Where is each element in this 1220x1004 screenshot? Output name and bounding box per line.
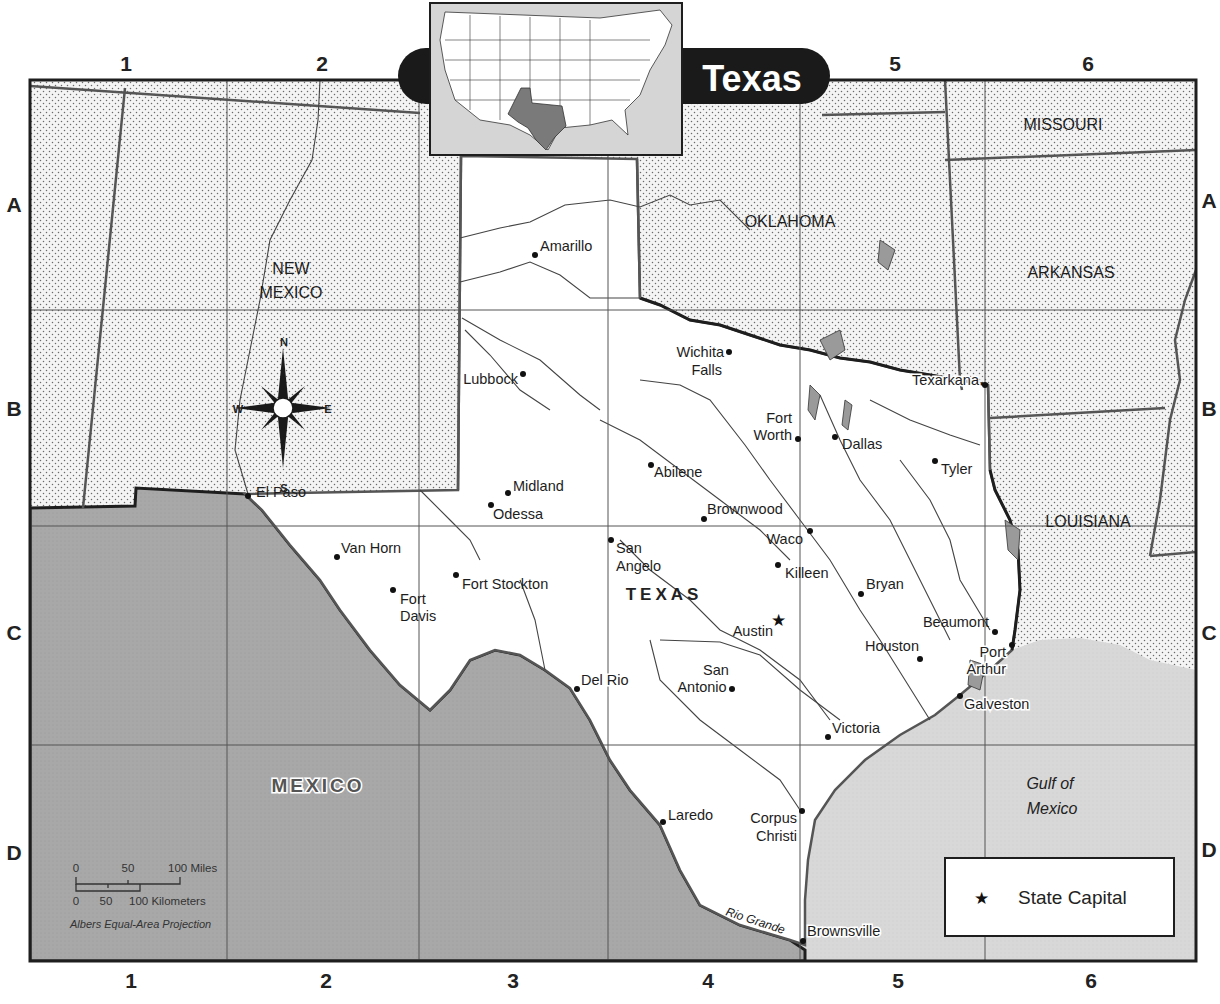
svg-text:Beaumont: Beaumont <box>923 614 989 630</box>
svg-text:C: C <box>6 621 21 644</box>
svg-text:3: 3 <box>507 969 519 992</box>
svg-text:6: 6 <box>1085 969 1097 992</box>
legend-label: State Capital <box>1018 887 1127 908</box>
label-new-mexico-2: MEXICO <box>259 284 322 301</box>
svg-text:N: N <box>280 336 288 348</box>
svg-text:W: W <box>233 403 244 415</box>
svg-text:San: San <box>703 662 729 678</box>
svg-text:Port: Port <box>979 644 1006 660</box>
svg-text:Christi: Christi <box>756 828 797 844</box>
city-abilene: Abilene <box>648 462 702 480</box>
svg-text:0: 0 <box>73 895 79 907</box>
svg-text:Bryan: Bryan <box>866 576 904 592</box>
legend-star-icon: ★ <box>974 889 989 908</box>
svg-text:Abilene: Abilene <box>654 464 702 480</box>
svg-text:Lubbock: Lubbock <box>463 371 519 387</box>
svg-text:Austin: Austin <box>733 623 773 639</box>
svg-text:50: 50 <box>122 862 135 874</box>
svg-text:Texarkana: Texarkana <box>912 372 980 388</box>
svg-text:Houston: Houston <box>865 638 919 654</box>
svg-text:San: San <box>616 540 642 556</box>
svg-text:5: 5 <box>892 969 904 992</box>
svg-text:1: 1 <box>120 52 132 75</box>
svg-text:Fort Stockton: Fort Stockton <box>462 576 548 592</box>
svg-text:5: 5 <box>889 52 901 75</box>
label-gulf-2: Mexico <box>1027 800 1078 817</box>
svg-text:Victoria: Victoria <box>832 720 881 736</box>
label-new-mexico: NEW <box>272 260 310 277</box>
svg-text:Del Rio: Del Rio <box>581 672 629 688</box>
svg-text:6: 6 <box>1082 52 1094 75</box>
svg-text:Odessa: Odessa <box>493 506 544 522</box>
svg-text:100 Kilometers: 100 Kilometers <box>129 895 206 907</box>
svg-text:Laredo: Laredo <box>668 807 713 823</box>
label-gulf-1: Gulf of <box>1026 775 1075 792</box>
svg-text:E: E <box>324 403 331 415</box>
label-arkansas: ARKANSAS <box>1027 264 1114 281</box>
svg-text:Davis: Davis <box>400 608 436 624</box>
svg-text:4: 4 <box>702 969 714 992</box>
svg-text:Albers Equal-Area Projection: Albers Equal-Area Projection <box>69 918 211 930</box>
svg-text:A: A <box>1201 189 1216 212</box>
label-oklahoma: OKLAHOMA <box>745 213 836 230</box>
svg-text:50: 50 <box>100 895 113 907</box>
inset-us-map <box>430 3 682 155</box>
svg-text:Worth: Worth <box>754 427 792 443</box>
label-mexico: MEXICO <box>272 775 365 796</box>
city-galveston: Galveston <box>957 693 1029 712</box>
svg-text:100 Miles: 100 Miles <box>168 862 217 874</box>
svg-text:2: 2 <box>316 52 328 75</box>
city-lubbock: Lubbock <box>463 371 526 387</box>
svg-text:D: D <box>6 841 21 864</box>
svg-text:S: S <box>280 482 287 494</box>
map-body <box>30 80 1196 961</box>
row-labels-right: A B C D <box>1201 189 1216 861</box>
column-labels-bottom: 1 2 3 4 5 6 <box>125 969 1097 992</box>
label-missouri: MISSOURI <box>1023 116 1102 133</box>
svg-text:C: C <box>1201 621 1216 644</box>
svg-text:Arthur: Arthur <box>967 661 1007 677</box>
city-texarkana: Texarkana <box>912 372 988 388</box>
svg-text:D: D <box>1201 838 1216 861</box>
svg-text:Wichita: Wichita <box>676 344 724 360</box>
legend: ★ State Capital <box>945 858 1174 936</box>
svg-text:Dallas: Dallas <box>842 436 882 452</box>
map-title: Texas <box>702 58 801 99</box>
svg-text:A: A <box>6 193 21 216</box>
svg-text:B: B <box>1201 397 1216 420</box>
label-louisiana: LOUISIANA <box>1045 513 1131 530</box>
texas-map: Texas 1 2 5 6 1 2 3 4 5 6 A <box>0 0 1220 1004</box>
row-labels-left: A B C D <box>6 193 21 864</box>
svg-text:Amarillo: Amarillo <box>540 238 592 254</box>
svg-text:Brownsville: Brownsville <box>807 923 880 939</box>
svg-text:Midland: Midland <box>513 478 564 494</box>
svg-text:Falls: Falls <box>691 362 722 378</box>
svg-text:Waco: Waco <box>766 531 803 547</box>
svg-text:Angelo: Angelo <box>616 558 661 574</box>
svg-text:Antonio: Antonio <box>677 679 726 695</box>
city-midland: Midland <box>505 478 564 496</box>
label-texas: TEXAS <box>626 585 703 604</box>
svg-text:Fort: Fort <box>766 410 792 426</box>
svg-text:Galveston: Galveston <box>964 696 1029 712</box>
svg-text:Fort: Fort <box>400 591 426 607</box>
svg-text:2: 2 <box>320 969 332 992</box>
svg-text:Tyler: Tyler <box>941 461 973 477</box>
svg-text:1: 1 <box>125 969 137 992</box>
city-laredo: Laredo <box>660 807 713 825</box>
svg-text:Brownwood: Brownwood <box>707 501 783 517</box>
svg-text:Killeen: Killeen <box>785 565 829 581</box>
svg-text:B: B <box>6 397 21 420</box>
svg-text:0: 0 <box>73 862 79 874</box>
svg-text:Van Horn: Van Horn <box>341 540 401 556</box>
svg-text:Corpus: Corpus <box>750 810 797 826</box>
